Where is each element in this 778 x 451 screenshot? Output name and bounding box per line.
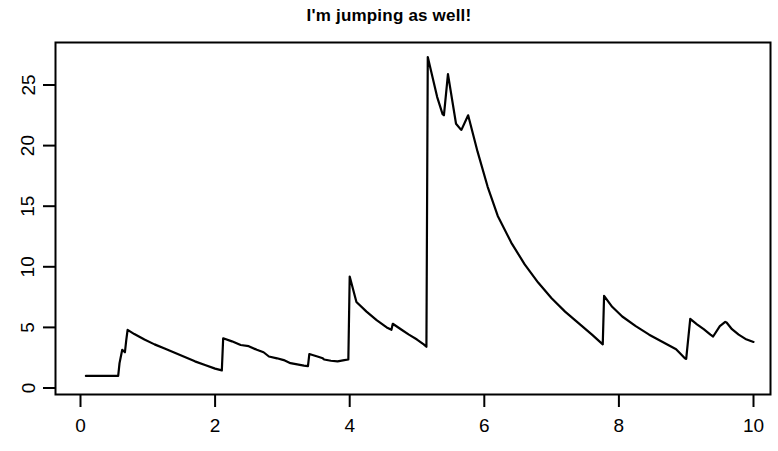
- y-tick-label: 10: [18, 256, 39, 277]
- y-axis-ticks: [43, 85, 55, 388]
- y-tick-label: 0: [18, 383, 39, 394]
- y-tick-label: 25: [18, 74, 39, 95]
- chart-figure: I'm jumping as well! 0246810 0510152025: [0, 0, 778, 451]
- x-axis-ticks: [81, 395, 754, 407]
- x-tick-label: 2: [210, 415, 221, 436]
- x-tick-label: 4: [344, 415, 355, 436]
- plot-area: 0246810 0510152025: [0, 0, 778, 451]
- x-tick-label: 8: [614, 415, 625, 436]
- data-series-line: [86, 57, 754, 376]
- y-tick-label: 20: [18, 135, 39, 156]
- x-tick-label: 6: [479, 415, 490, 436]
- x-tick-label: 0: [75, 415, 86, 436]
- y-axis-tick-labels: 0510152025: [18, 74, 39, 393]
- x-axis-tick-labels: 0246810: [75, 415, 764, 436]
- y-tick-label: 15: [18, 196, 39, 217]
- y-tick-label: 5: [18, 322, 39, 333]
- x-tick-label: 10: [743, 415, 764, 436]
